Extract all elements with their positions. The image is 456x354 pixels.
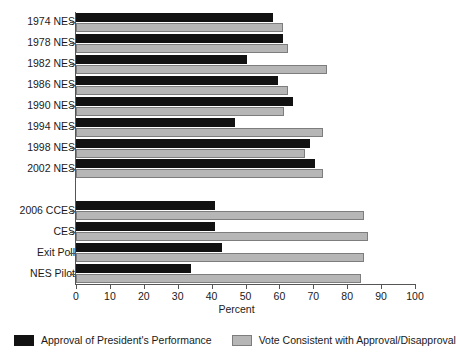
x-tick-label: 50 [240, 290, 252, 302]
category-label: Exit Poll [7, 247, 75, 257]
x-axis-ticks: 0102030405060708090100 [76, 285, 415, 305]
x-tick [212, 285, 213, 289]
legend-label-approval: Approval of President's Performance [41, 334, 212, 346]
category-tick [70, 169, 75, 170]
x-tick-label: 20 [138, 290, 150, 302]
category-tick [70, 127, 75, 128]
category-tick [70, 211, 75, 212]
bar-consistent [76, 211, 364, 220]
x-tick-label: 10 [104, 290, 116, 302]
x-tick [347, 285, 348, 289]
legend-swatch-approval-icon [14, 335, 34, 346]
bar-approval [76, 243, 222, 252]
bar-row [76, 243, 415, 264]
x-tick [246, 285, 247, 289]
bar-consistent [76, 149, 305, 158]
bar-row [76, 13, 415, 34]
legend-item-approval: Approval of President's Performance [14, 334, 212, 346]
legend-label-consistent: Vote Consistent with Approval/Disapprova… [259, 334, 456, 346]
category-tick [70, 274, 75, 275]
x-tick [381, 285, 382, 289]
x-tick-label: 30 [172, 290, 184, 302]
bar-approval [76, 264, 191, 273]
x-tick-label: 70 [307, 290, 319, 302]
bar-approval [76, 222, 215, 231]
bar-approval [76, 34, 283, 43]
bar-consistent [76, 169, 323, 178]
chart-legend: Approval of President's Performance Vote… [0, 330, 437, 350]
bar-consistent [76, 86, 288, 95]
category-label: NES Pilot [7, 268, 75, 278]
category-label: 1974 NES [7, 16, 75, 26]
bar-row [76, 180, 415, 201]
bar-approval [76, 201, 215, 210]
category-label: 1990 NES [7, 100, 75, 110]
bar-row [76, 34, 415, 55]
bar-consistent [76, 232, 368, 241]
bar-row [76, 118, 415, 139]
bar-consistent [76, 23, 283, 32]
category-label: 1994 NES [7, 121, 75, 131]
plot-area [76, 12, 415, 284]
category-tick [70, 148, 75, 149]
x-axis-title-label: Percent [182, 303, 254, 315]
bar-row [76, 139, 415, 160]
x-tick-label: 90 [375, 290, 387, 302]
bar-row [76, 201, 415, 222]
x-tick [313, 285, 314, 289]
bar-row [76, 55, 415, 76]
bar-approval [76, 139, 310, 148]
x-tick-label: 0 [73, 290, 79, 302]
bar-row [76, 264, 415, 285]
category-label: 1986 NES [7, 79, 75, 89]
bar-consistent [76, 128, 323, 137]
legend-item-consistent: Vote Consistent with Approval/Disapprova… [232, 334, 456, 346]
bar-approval [76, 55, 247, 64]
category-tick [70, 253, 75, 254]
x-tick-label: 60 [274, 290, 286, 302]
bar-row [76, 159, 415, 180]
x-tick-label: 100 [406, 290, 424, 302]
bar-rows [76, 12, 415, 284]
category-tick [70, 43, 75, 44]
bar-consistent [76, 253, 364, 262]
category-tick [70, 106, 75, 107]
bar-consistent [76, 65, 327, 74]
category-tick [70, 232, 75, 233]
category-tick [70, 64, 75, 65]
bar-row [76, 222, 415, 243]
bar-consistent [76, 44, 288, 53]
bar-approval [76, 97, 293, 106]
bar-approval [76, 118, 235, 127]
category-label: 1982 NES [7, 58, 75, 68]
x-tick [144, 285, 145, 289]
category-tick [70, 22, 75, 23]
x-tick [279, 285, 280, 289]
x-tick [110, 285, 111, 289]
x-axis-title: Percent [0, 303, 437, 315]
x-tick [178, 285, 179, 289]
x-tick-label: 40 [206, 290, 218, 302]
category-label: 1978 NES [7, 37, 75, 47]
category-label: CES [7, 226, 75, 236]
bar-approval [76, 76, 278, 85]
x-tick [415, 285, 416, 289]
category-label: 1998 NES [7, 142, 75, 152]
bar-row [76, 97, 415, 118]
legend-swatch-consistent-icon [232, 335, 252, 346]
x-tick [76, 285, 77, 289]
bar-approval [76, 13, 273, 22]
bar-consistent [76, 107, 284, 116]
category-axis: 1974 NES1978 NES1982 NES1986 NES1990 NES… [0, 12, 75, 284]
category-tick [70, 85, 75, 86]
category-label: 2006 CCES [7, 205, 75, 215]
bar-row [76, 76, 415, 97]
bar-approval [76, 159, 315, 168]
category-label: 2002 NES [7, 163, 75, 173]
bar-consistent [76, 274, 361, 283]
x-tick-label: 80 [341, 290, 353, 302]
